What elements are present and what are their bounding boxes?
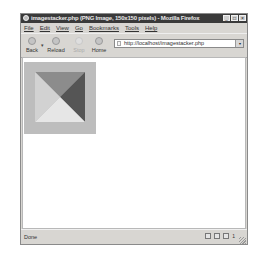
status-icons: 1 (205, 233, 235, 239)
window-title: imagestacker.php (PNG Image, 150x150 pix… (31, 14, 199, 23)
title-bar[interactable]: imagestacker.php (PNG Image, 150x150 pix… (21, 14, 247, 23)
status-text: Done (24, 234, 37, 240)
reload-label: Reload (47, 47, 64, 53)
home-button[interactable]: Home (89, 35, 109, 55)
url-history-dropdown-icon[interactable]: ▾ (235, 40, 243, 47)
url-text[interactable]: http://localhost/imagestacker.php (124, 40, 204, 47)
back-arrow-icon (28, 37, 36, 45)
home-label: Home (92, 47, 107, 53)
stacked-triangles-graphic (35, 72, 85, 122)
menu-go[interactable]: Go (75, 25, 83, 31)
minimize-button[interactable]: _ (223, 15, 230, 21)
close-button[interactable]: × (239, 15, 246, 21)
back-history-dropdown-icon[interactable]: ▾ (41, 42, 44, 48)
stop-button[interactable]: Stop (69, 35, 89, 55)
reload-button[interactable]: Reload (46, 35, 66, 55)
displayed-png-image (24, 62, 96, 134)
stop-label: Stop (73, 47, 84, 53)
popup-count: 1 (232, 233, 235, 239)
window-controls: _ □ × (223, 15, 246, 21)
page-content (22, 57, 246, 229)
menu-edit[interactable]: Edit (40, 25, 50, 31)
browser-window: imagestacker.php (PNG Image, 150x150 pix… (20, 13, 248, 245)
back-button[interactable]: Back (22, 35, 42, 55)
menu-tools[interactable]: Tools (125, 25, 139, 31)
status-bar: Done 1 (21, 229, 247, 245)
resize-grip[interactable] (239, 237, 246, 244)
menu-file[interactable]: File (24, 25, 34, 31)
stop-icon (75, 37, 83, 45)
menu-bookmarks[interactable]: Bookmarks (89, 25, 119, 31)
url-bar[interactable]: http://localhost/imagestacker.php ▾ (114, 39, 244, 48)
popup-blocked-icon[interactable] (223, 233, 229, 239)
mail-icon[interactable] (205, 233, 211, 239)
menu-help[interactable]: Help (145, 25, 157, 31)
navigation-toolbar: Back ▾ Reload Stop Home http://localhost… (21, 33, 247, 58)
security-icon[interactable] (214, 233, 220, 239)
menu-bar: File Edit View Go Bookmarks Tools Help (21, 23, 247, 33)
maximize-button[interactable]: □ (231, 15, 238, 21)
home-icon (95, 37, 103, 45)
reload-icon (52, 37, 60, 45)
menu-view[interactable]: View (56, 25, 69, 31)
page-icon (117, 41, 121, 46)
back-label: Back (26, 47, 38, 53)
firefox-icon (23, 15, 29, 21)
